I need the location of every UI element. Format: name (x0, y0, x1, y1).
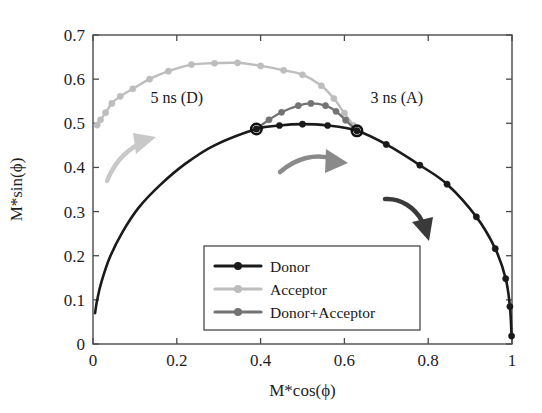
legend-label-1: Acceptor (270, 281, 328, 298)
x-tick-label-2: 0.4 (250, 351, 272, 370)
data-point (281, 67, 287, 73)
y-tick-label-7: 0.7 (64, 26, 86, 45)
donor-acceptor-direction-arrow (280, 149, 348, 173)
x-tick-label-3: 0.6 (334, 351, 355, 370)
acceptor-lifetime-label: 3 ns (A) (371, 89, 423, 107)
data-point (507, 303, 513, 309)
x-tick-label-4: 0.8 (418, 351, 439, 370)
legend-marker-1 (234, 285, 242, 293)
data-point (295, 103, 301, 109)
data-point (276, 122, 282, 128)
data-point (117, 93, 123, 99)
series-line (97, 63, 353, 126)
data-point (109, 100, 115, 106)
data-point (331, 95, 337, 101)
data-point (211, 60, 217, 66)
data-point (444, 181, 450, 187)
data-point (343, 117, 349, 123)
data-point (278, 109, 284, 115)
legend-box[interactable]: DonorAcceptorDonor+Acceptor (204, 246, 420, 330)
donor-acceptor-direction-arrow-head (325, 149, 348, 173)
y-tick-label-0: 0 (77, 335, 86, 354)
data-point (299, 72, 305, 78)
data-point (354, 128, 360, 134)
data-point (253, 126, 259, 132)
data-point (146, 76, 152, 82)
data-point (102, 110, 108, 116)
legend-label-2: Donor+Acceptor (270, 304, 376, 321)
data-point (322, 103, 328, 109)
y-axis-label: M*sin(ϕ) (7, 158, 26, 222)
x-axis-label: M*cos(ϕ) (269, 381, 336, 400)
data-point (473, 214, 479, 220)
annotations-group: 5 ns (D)3 ns (A) (151, 89, 423, 107)
data-point (417, 162, 423, 168)
data-point (266, 117, 272, 123)
data-point (97, 117, 103, 123)
acceptor-direction-arrow (107, 133, 156, 181)
data-point (130, 86, 136, 92)
y-axis-tick-labels: 00.10.20.30.40.50.60.7 (64, 26, 86, 354)
chart-canvas: 00.20.40.60.81 00.10.20.30.40.50.60.7 5 … (0, 0, 542, 413)
data-point (165, 68, 171, 74)
data-point (308, 100, 314, 106)
data-point (258, 63, 264, 69)
x-axis-tick-labels: 00.20.40.60.81 (89, 351, 517, 370)
data-point (188, 61, 194, 67)
data-point (318, 83, 324, 89)
x-tick-label-1: 0.2 (166, 351, 187, 370)
data-point (333, 108, 339, 114)
donor-direction-arrow-shaft (385, 199, 422, 221)
data-point (383, 141, 389, 147)
series-acceptor (94, 60, 357, 129)
y-tick-label-6: 0.6 (64, 70, 85, 89)
acceptor-direction-arrow-shaft (107, 144, 139, 181)
data-point (325, 122, 331, 128)
x-tick-label-0: 0 (89, 351, 98, 370)
donor-lifetime-label: 5 ns (D) (151, 89, 203, 107)
acceptor-direction-arrow-head (133, 133, 156, 154)
y-tick-label-3: 0.3 (64, 203, 85, 222)
donor-direction-arrow (385, 199, 433, 241)
y-tick-label-4: 0.4 (64, 158, 86, 177)
data-point (234, 60, 240, 66)
phasor-plot-figure: 00.20.40.60.81 00.10.20.30.40.50.60.7 5 … (0, 0, 542, 413)
y-tick-label-2: 0.2 (64, 247, 85, 266)
x-tick-label-5: 1 (508, 351, 517, 370)
data-point (508, 333, 514, 339)
legend-label-0: Donor (270, 258, 310, 275)
data-point (503, 276, 509, 282)
donor-direction-arrow-head (412, 217, 433, 241)
direction-arrows-group (107, 133, 433, 241)
donor-acceptor-direction-arrow-shaft (280, 157, 333, 172)
data-point (492, 246, 498, 252)
y-tick-label-5: 0.5 (64, 114, 85, 133)
legend-marker-0 (234, 262, 242, 270)
data-point (299, 121, 305, 127)
y-tick-label-1: 0.1 (64, 291, 85, 310)
legend-marker-2 (234, 308, 242, 316)
